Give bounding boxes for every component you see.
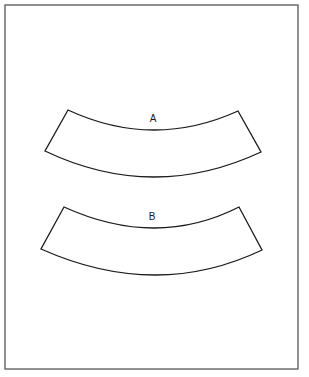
shape-label-b: B: [149, 211, 156, 222]
figure-frame: [5, 5, 298, 369]
shape-label-a: A: [150, 113, 157, 124]
diagram-canvas: A B: [0, 0, 309, 377]
